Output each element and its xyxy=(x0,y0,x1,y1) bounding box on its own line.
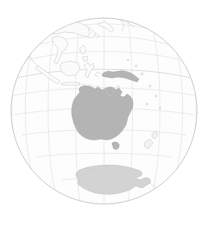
globe-figure xyxy=(0,0,210,226)
tasmania-island xyxy=(112,142,119,149)
globe-map-svg xyxy=(0,0,210,226)
